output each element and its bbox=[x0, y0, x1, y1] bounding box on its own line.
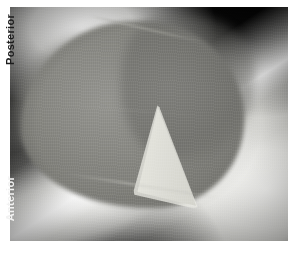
anterior-orientation-label: Anterior bbox=[5, 176, 16, 221]
ultrasound-scan-image bbox=[10, 7, 288, 241]
image-frame: Posterior Anterior bbox=[0, 0, 297, 253]
posterior-orientation-label: Posterior bbox=[5, 14, 16, 65]
vignette-overlay bbox=[10, 7, 288, 241]
